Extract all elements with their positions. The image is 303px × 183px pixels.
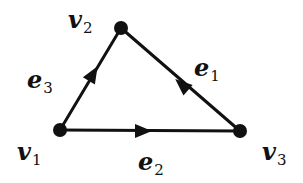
label-base: e [27, 65, 42, 94]
label-base: e [138, 147, 153, 176]
edge-label-e2: e2 [138, 150, 164, 178]
edge-e3-arrow-icon [83, 63, 104, 85]
label-base: v [262, 137, 276, 166]
label-base: v [17, 137, 31, 166]
label-base: v [68, 5, 82, 34]
label-base: e [194, 53, 209, 82]
label-subscript: 3 [43, 79, 53, 97]
label-subscript: 3 [277, 151, 287, 169]
edge-e2-arrow-icon [135, 124, 152, 138]
node-label-v2: v2 [68, 8, 93, 36]
label-subscript: 1 [32, 151, 42, 169]
label-subscript: 2 [154, 161, 164, 179]
graph-diagram: v2 v1 v3 e3 e1 e2 [0, 0, 303, 183]
node-v3 [233, 124, 247, 138]
edge-e1-line [121, 28, 240, 131]
node-v2 [114, 21, 128, 35]
edge-e1-arrow-icon [171, 74, 193, 96]
label-subscript: 2 [83, 19, 93, 37]
node-label-v1: v1 [17, 140, 42, 168]
node-label-v3: v3 [262, 140, 287, 168]
node-v1 [53, 123, 67, 137]
edge-label-e3: e3 [27, 68, 53, 96]
label-subscript: 1 [210, 67, 220, 85]
edge-label-e1: e1 [194, 56, 220, 84]
